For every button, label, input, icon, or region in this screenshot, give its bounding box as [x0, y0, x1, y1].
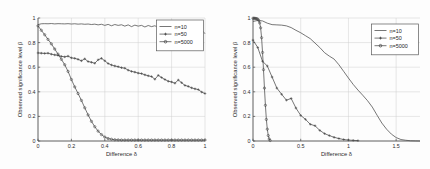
series-marker-plus [114, 65, 117, 68]
series-marker-plus [53, 54, 56, 57]
x-tick-label: 0.5 [297, 143, 305, 149]
series-marker-plus [187, 85, 190, 88]
series-marker-plus [117, 65, 120, 68]
chart-svg-left: 00.20.40.60.8100.20.40.60.81Difference δ… [0, 0, 215, 169]
legend-label: n=10 [390, 28, 402, 34]
series-marker-plus [204, 92, 207, 95]
series-marker-plus [67, 55, 70, 58]
legend-label: n=50 [390, 35, 402, 41]
series-marker-plus [120, 66, 123, 69]
series-marker-plus [47, 52, 50, 55]
series-marker-plus [77, 58, 80, 61]
series-line-n-50 [38, 53, 205, 94]
x-tick-label: 0 [252, 143, 255, 149]
y-axis-title: Observed significance level β [17, 41, 23, 117]
series-marker-plus [40, 52, 43, 55]
y-axis-title: Observed significance level β [232, 41, 238, 117]
series-marker-plus [43, 52, 46, 55]
series-marker-plus [70, 57, 73, 60]
legend-label: n=5000 [390, 43, 408, 49]
x-tick-label: 0.4 [101, 143, 109, 149]
series-marker-plus [110, 64, 113, 67]
series-marker-plus [333, 136, 336, 139]
x-tick-label: 0.2 [68, 143, 76, 149]
y-tick-label: 0.6 [243, 64, 251, 70]
x-tick-label: 0.6 [134, 143, 142, 149]
series-marker-plus [328, 134, 331, 137]
series-marker-plus [271, 76, 274, 79]
series-marker-plus [167, 80, 170, 83]
x-tick-label: 1 [204, 143, 207, 149]
chart-svg-right: 00.511.500.20.40.60.81Difference δObserv… [215, 0, 430, 169]
y-tick-label: 0.2 [28, 113, 36, 119]
series-marker-plus [50, 53, 53, 56]
y-tick-label: 0.8 [243, 40, 251, 46]
legend-label: n=50 [175, 31, 187, 37]
series-marker-plus [194, 88, 197, 91]
series-marker-plus [137, 72, 140, 75]
y-tick-label: 0.8 [28, 40, 36, 46]
x-axis-title: Difference δ [106, 151, 137, 157]
legend-label: n=5000 [175, 39, 193, 45]
series-marker-plus [90, 61, 93, 64]
legend: n=10n=50n=5000 [372, 24, 419, 55]
y-tick-label: 0 [248, 138, 251, 144]
series-marker-plus [342, 138, 345, 141]
x-tick-label: 0 [37, 143, 40, 149]
series-marker-plus [170, 81, 173, 84]
y-tick-label: 0.4 [28, 89, 36, 95]
chart-panel-right: 00.511.500.20.40.60.81Difference δObserv… [215, 0, 430, 169]
x-tick-label: 0.8 [168, 143, 176, 149]
series-marker-plus [140, 72, 143, 75]
series-marker-plus [134, 71, 137, 74]
y-tick-label: 1 [33, 15, 36, 21]
legend-label: n=10 [175, 24, 187, 30]
series-marker-plus [338, 137, 341, 140]
series-marker-plus [290, 97, 293, 100]
y-tick-label: 0.4 [243, 89, 251, 95]
x-tick-label: 1.5 [392, 143, 400, 149]
figure-container: 00.20.40.60.8100.20.40.60.81Difference δ… [0, 0, 430, 169]
y-tick-label: 0.6 [28, 64, 36, 70]
series-line-n-50 [253, 40, 358, 140]
series-marker-plus [63, 56, 66, 59]
legend: n=10n=50n=5000 [157, 20, 204, 51]
series-marker-plus [190, 87, 193, 90]
x-axis-title: Difference δ [321, 151, 352, 157]
y-tick-label: 1 [248, 15, 251, 21]
x-tick-label: 1 [347, 143, 350, 149]
chart-panel-left: 00.20.40.60.8100.20.40.60.81Difference δ… [0, 0, 215, 169]
series-marker-plus [147, 75, 150, 78]
y-tick-label: 0 [33, 138, 36, 144]
series-marker-plus [144, 74, 147, 77]
series-marker-plus [73, 57, 76, 60]
y-tick-label: 0.2 [243, 113, 251, 119]
series-marker-plus [130, 70, 133, 73]
